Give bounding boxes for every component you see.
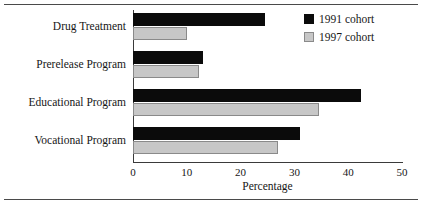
bar-series-1991 — [133, 89, 361, 102]
bar-group — [133, 49, 402, 87]
x-tick-20: 20 — [226, 166, 256, 178]
bar-series-1997 — [133, 103, 319, 116]
category-label-educational-program: Educational Program — [0, 97, 126, 109]
legend-entry-1991: 1991 cohort — [304, 11, 374, 26]
bar-group — [133, 87, 402, 125]
category-label-drug-treatment: Drug Treatment — [0, 21, 126, 33]
x-tick-0: 0 — [118, 166, 148, 178]
x-tick-40: 40 — [333, 166, 363, 178]
legend-swatch-icon-1997 — [304, 32, 314, 42]
x-axis-title: Percentage — [133, 180, 402, 192]
legend-swatch-icon-1991 — [304, 14, 314, 24]
x-tick-50: 50 — [387, 166, 417, 178]
bar-series-1991 — [133, 127, 300, 140]
x-tick-10: 10 — [172, 166, 202, 178]
bar-series-1991 — [133, 51, 203, 64]
bar-series-1997 — [133, 65, 199, 78]
bar-series-1997 — [133, 141, 278, 154]
category-label-prerelease-program: Prerelease Program — [0, 59, 126, 71]
legend-label-1997: 1997 cohort — [319, 31, 374, 43]
x-tick-30: 30 — [279, 166, 309, 178]
chart-legend: 1991 cohort 1997 cohort — [304, 11, 374, 47]
bar-group — [133, 125, 402, 163]
category-label-vocational-program: Vocational Program — [0, 135, 126, 147]
figure-top-rule — [4, 4, 418, 5]
legend-entry-1997: 1997 cohort — [304, 29, 374, 44]
bar-series-1991 — [133, 13, 265, 26]
bar-chart-figure: Drug Treatment Prerelease Program Educat… — [0, 0, 422, 206]
figure-bottom-rule — [4, 199, 418, 200]
legend-label-1991: 1991 cohort — [319, 13, 374, 25]
bar-series-1997 — [133, 27, 187, 40]
